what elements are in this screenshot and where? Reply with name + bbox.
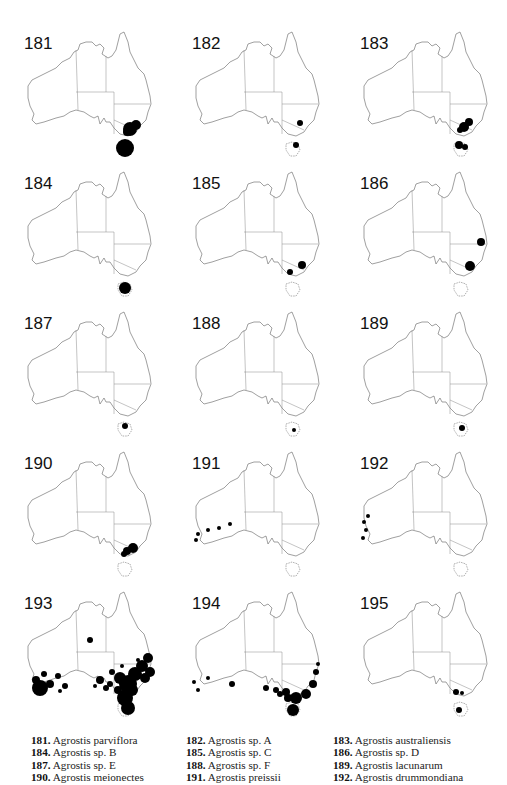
occurrence-dot [123,128,131,136]
australia-outline-map [336,300,496,440]
distribution-map: 183 [336,20,496,160]
occurrence-dot [364,528,368,532]
occurrence-dot [313,669,319,675]
occurrence-dot [284,694,292,702]
occurrence-dot [58,689,62,693]
occurrence-dot [116,139,134,157]
occurrence-dot [316,662,320,666]
australia-outline-map [336,20,496,160]
occurrence-dot [194,538,198,542]
occurrence-dot [121,701,135,715]
distribution-map: 189 [336,300,496,440]
caption-entry: 189. Agrostis lacunarum [333,759,463,771]
occurrence-dot [46,680,54,688]
distribution-map: 188 [168,300,328,440]
occurrence-dot [309,680,317,688]
occurrence-dot [465,261,475,271]
caption-entry: 183. Agrostis australiensis [333,734,463,746]
australia-outline-map [168,300,328,440]
occurrence-dot [229,681,235,687]
australia-outline-map [336,440,496,580]
distribution-map: 194 [168,580,328,720]
australia-outline-map [168,580,328,720]
distribution-map: 195 [336,580,496,720]
australia-outline-map [0,160,160,300]
occurrence-dot [192,680,196,684]
occurrence-dot [109,669,115,675]
occurrence-dot [32,676,40,684]
caption-entry: 187. Agrostis sp. E [31,759,144,771]
australia-outline-map [168,160,328,300]
distribution-map: 187 [0,300,160,440]
occurrence-dot [131,120,141,130]
australia-outline-map [0,580,160,720]
occurrence-dot [366,514,370,518]
occurrence-dot [55,673,61,679]
occurrence-dot [206,528,210,532]
occurrence-dot [287,269,293,275]
australia-outline-map [0,440,160,580]
occurrence-dot [96,676,104,684]
distribution-map: 190 [0,440,160,580]
occurrence-dot [217,526,221,530]
occurrence-dot [126,684,138,696]
occurrence-dot [287,704,299,716]
distribution-map: 193 [0,580,160,720]
occurrence-dot [460,691,464,695]
caption-entry: 190. Agrostis meionectes [31,771,144,783]
distribution-map: 185 [168,160,328,300]
occurrence-dot [136,658,140,662]
occurrence-dot [457,127,463,133]
occurrence-dot [41,671,47,677]
distribution-map: 192 [336,440,496,580]
caption-entry: 181. Agrostis parviflora [31,734,144,746]
occurrence-dot [228,522,232,526]
caption-entry: 188. Agrostis sp. F [186,759,281,771]
distribution-map: 186 [336,160,496,300]
caption-entry: 182. Agrostis sp. A [186,734,281,746]
occurrence-dot [453,689,459,695]
australia-outline-map [168,20,328,160]
occurrence-dot [120,664,124,668]
distribution-map: 184 [0,160,160,300]
occurrence-dot [361,536,365,540]
caption-entry: 192. Agrostis drummondiana [333,771,463,783]
occurrence-dot [196,532,200,536]
occurrence-dot [119,282,131,294]
occurrence-dot [263,685,269,691]
occurrence-dot [140,673,150,683]
distribution-map: 181 [0,20,160,160]
distribution-map: 182 [168,20,328,160]
occurrence-dot [93,684,97,688]
occurrence-dot [143,653,153,663]
occurrence-dot [465,118,473,126]
caption-column-3: 183. Agrostis australiensis 186. Agrosti… [333,734,463,783]
occurrence-dot [206,676,210,680]
occurrence-dot [103,685,109,691]
australia-outline-map [168,440,328,580]
occurrence-dot [298,261,306,269]
australia-outline-map [336,580,496,720]
occurrence-dot [456,707,462,713]
occurrence-dot [362,520,366,524]
caption-entry: 186. Agrostis sp. D [333,746,463,758]
occurrence-dot [301,689,311,699]
occurrence-dot [462,144,468,150]
australia-outline-map [336,160,496,300]
occurrence-dot [277,691,283,697]
caption-entry: 185. Agrostis sp. C [186,746,281,758]
occurrence-dot [114,686,122,694]
australia-outline-map [0,300,160,440]
caption-entry: 184. Agrostis sp. B [31,746,144,758]
occurrence-dot [477,238,485,246]
caption-column-2: 182. Agrostis sp. A 185. Agrostis sp. C … [186,734,281,783]
occurrence-dot [122,423,128,429]
occurrence-dot [62,683,68,689]
australia-outline-map [0,20,160,160]
caption-column-1: 181. Agrostis parviflora 184. Agrostis s… [31,734,144,783]
occurrence-dot [297,120,303,126]
occurrence-dot [87,637,93,643]
occurrence-dot [292,428,296,432]
occurrence-dot [293,142,299,148]
distribution-map: 191 [168,440,328,580]
